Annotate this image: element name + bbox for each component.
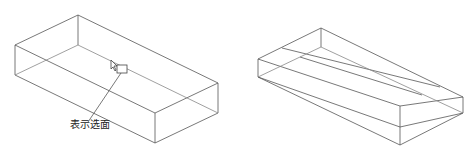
callout-label: 表示选面 (70, 116, 110, 131)
selection-cursor-icon (111, 60, 127, 73)
callout-leader-line (88, 73, 121, 122)
right-box-wireframe (258, 28, 463, 145)
diagram-canvas (0, 0, 471, 155)
